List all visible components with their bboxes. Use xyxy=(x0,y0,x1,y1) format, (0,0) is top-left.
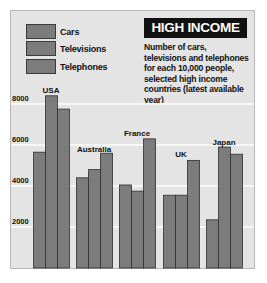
category-label-usa: USA xyxy=(43,86,60,95)
category-label-japan: Japan xyxy=(212,138,235,147)
y-tick-label: 4000 xyxy=(12,176,29,185)
bar-france-televisions xyxy=(132,191,144,268)
y-tick-label: 6000 xyxy=(12,135,29,144)
bar-usa-telephones xyxy=(58,109,70,268)
bar-australia-telephones xyxy=(101,153,113,268)
bar-france-cars xyxy=(120,185,132,268)
category-label-uk: UK xyxy=(175,150,187,159)
bar-usa-cars xyxy=(34,152,46,268)
y-tick-label: 8000 xyxy=(12,94,29,103)
category-label-france: France xyxy=(124,129,151,138)
bar-chart: 2000400060008000USAAustraliaFranceUKJapa… xyxy=(0,0,267,283)
bar-uk-telephones xyxy=(188,160,200,268)
y-tick-label: 2000 xyxy=(12,217,29,226)
bar-france-telephones xyxy=(144,139,156,268)
bar-usa-televisions xyxy=(46,96,58,268)
bar-japan-telephones xyxy=(231,154,243,268)
bar-japan-cars xyxy=(207,220,219,268)
bar-uk-cars xyxy=(164,195,176,268)
category-label-australia: Australia xyxy=(77,145,112,154)
bar-australia-televisions xyxy=(89,170,101,268)
bar-australia-cars xyxy=(77,178,89,268)
bar-uk-televisions xyxy=(176,195,188,268)
bar-japan-televisions xyxy=(219,147,231,268)
